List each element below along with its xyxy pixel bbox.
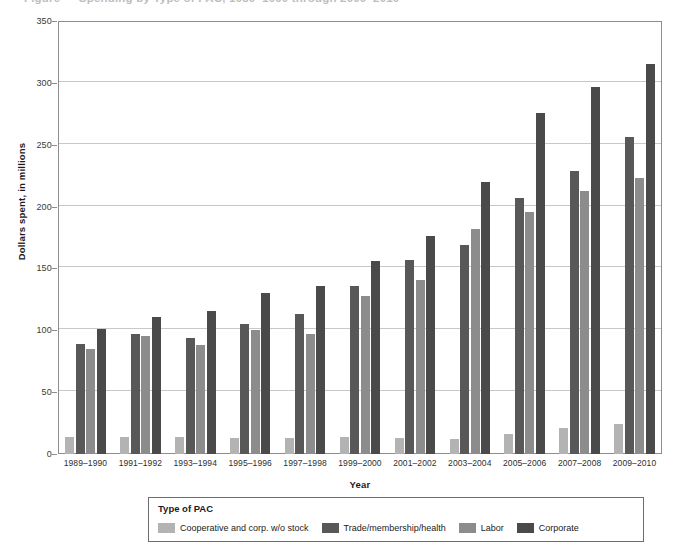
x-axis-tick-label: 1991–1992	[113, 458, 168, 468]
bar	[405, 260, 414, 454]
legend-swatch	[517, 523, 534, 533]
bar-group	[223, 21, 278, 454]
legend-title: Type of PAC	[158, 503, 213, 514]
x-axis-tick-label: 1997–1998	[278, 458, 333, 468]
y-axis-tick-label: 100	[6, 325, 52, 335]
bar	[120, 437, 129, 454]
legend: Type of PAC Cooperative and corp. w/o st…	[148, 497, 644, 542]
x-axis-title: Year	[58, 479, 662, 490]
legend-swatch	[158, 523, 175, 533]
bar	[340, 437, 349, 454]
bar	[570, 171, 579, 454]
legend-item[interactable]: Corporate	[517, 523, 579, 533]
x-axis-tick-label: 1999–2000	[333, 458, 388, 468]
bar	[316, 286, 325, 454]
bar	[76, 344, 85, 454]
bar	[471, 229, 480, 454]
y-axis-tick-mark	[52, 145, 57, 146]
x-axis-tick-label: 2007–2008	[552, 458, 607, 468]
bar-group	[607, 21, 662, 454]
bar-group	[442, 21, 497, 454]
legend-label: Corporate	[539, 523, 579, 533]
bar	[196, 345, 205, 454]
bar	[306, 334, 315, 454]
bar	[614, 424, 623, 454]
bar	[285, 438, 294, 454]
legend-swatch	[459, 523, 476, 533]
bar	[515, 198, 524, 454]
bar	[207, 311, 216, 455]
legend-item[interactable]: Labor	[459, 523, 504, 533]
bar	[395, 438, 404, 454]
x-axis-tick-label: 1995–1996	[223, 458, 278, 468]
y-axis-tick-label: 0	[6, 449, 52, 459]
y-axis-tick-label: 200	[6, 202, 52, 212]
bar	[635, 178, 644, 454]
bar	[625, 137, 634, 454]
y-axis-tick-mark	[52, 454, 57, 455]
legend-item[interactable]: Trade/membership/health	[322, 523, 446, 533]
bar	[361, 296, 370, 454]
y-axis-tick-label: 250	[6, 140, 52, 150]
bar	[152, 317, 161, 454]
x-axis-tick-labels: 1989–19901991–19921993–19941995–19961997…	[58, 458, 662, 474]
bar-group	[497, 21, 552, 454]
bar	[261, 293, 270, 454]
x-axis-tick-label: 1989–1990	[58, 458, 113, 468]
y-axis-tick-label: 350	[6, 16, 52, 26]
x-axis-tick-label: 2009–2010	[607, 458, 662, 468]
bar-group	[278, 21, 333, 454]
bar-group	[387, 21, 442, 454]
legend-label: Cooperative and corp. w/o stock	[180, 523, 309, 533]
bar	[240, 324, 249, 454]
x-axis-tick-label: 2005–2006	[497, 458, 552, 468]
bar	[186, 338, 195, 454]
bar	[371, 261, 380, 454]
bar	[97, 329, 106, 454]
y-axis-tick-mark	[52, 392, 57, 393]
bar	[525, 212, 534, 454]
x-axis-tick-label: 1993–1994	[168, 458, 223, 468]
bar	[426, 236, 435, 454]
bar	[504, 434, 513, 454]
y-axis-tick-mark	[52, 330, 57, 331]
y-axis-tick-mark	[52, 21, 57, 22]
x-axis-tick-label: 2003–2004	[442, 458, 497, 468]
bar	[460, 245, 469, 454]
bar	[559, 428, 568, 454]
y-axis-tick-mark	[52, 268, 57, 269]
y-axis-tick-label: 300	[6, 78, 52, 88]
bar-group	[168, 21, 223, 454]
bar-group	[113, 21, 168, 454]
legend-items: Cooperative and corp. w/o stockTrade/mem…	[158, 521, 637, 535]
bar	[230, 438, 239, 454]
legend-swatch	[322, 523, 339, 533]
bar-group	[552, 21, 607, 454]
y-axis-tick-mark	[52, 207, 57, 208]
bar	[141, 336, 150, 454]
y-axis-tick-mark	[52, 83, 57, 84]
bar	[251, 330, 260, 454]
bar	[580, 191, 589, 455]
bar	[591, 87, 600, 454]
y-axis-tick-label: 50	[6, 387, 52, 397]
bar	[131, 334, 140, 454]
legend-item[interactable]: Cooperative and corp. w/o stock	[158, 523, 309, 533]
x-axis-tick-label: 2001–2002	[387, 458, 442, 468]
legend-label: Labor	[481, 523, 504, 533]
bar-chart: 050100150200250300350 Dollars spent, in …	[0, 0, 698, 554]
bar	[295, 314, 304, 454]
bar	[450, 439, 459, 454]
y-axis-tick-label: 150	[6, 263, 52, 273]
bar	[86, 349, 95, 454]
bar-group	[333, 21, 388, 454]
bar	[65, 437, 74, 454]
y-axis-title: Dollars spent, in millions	[16, 112, 27, 292]
bar	[175, 437, 184, 454]
bar	[350, 286, 359, 454]
legend-label: Trade/membership/health	[344, 523, 446, 533]
bar	[536, 113, 545, 454]
bars-layer	[58, 21, 662, 454]
bar	[481, 182, 490, 454]
bar-group	[58, 21, 113, 454]
